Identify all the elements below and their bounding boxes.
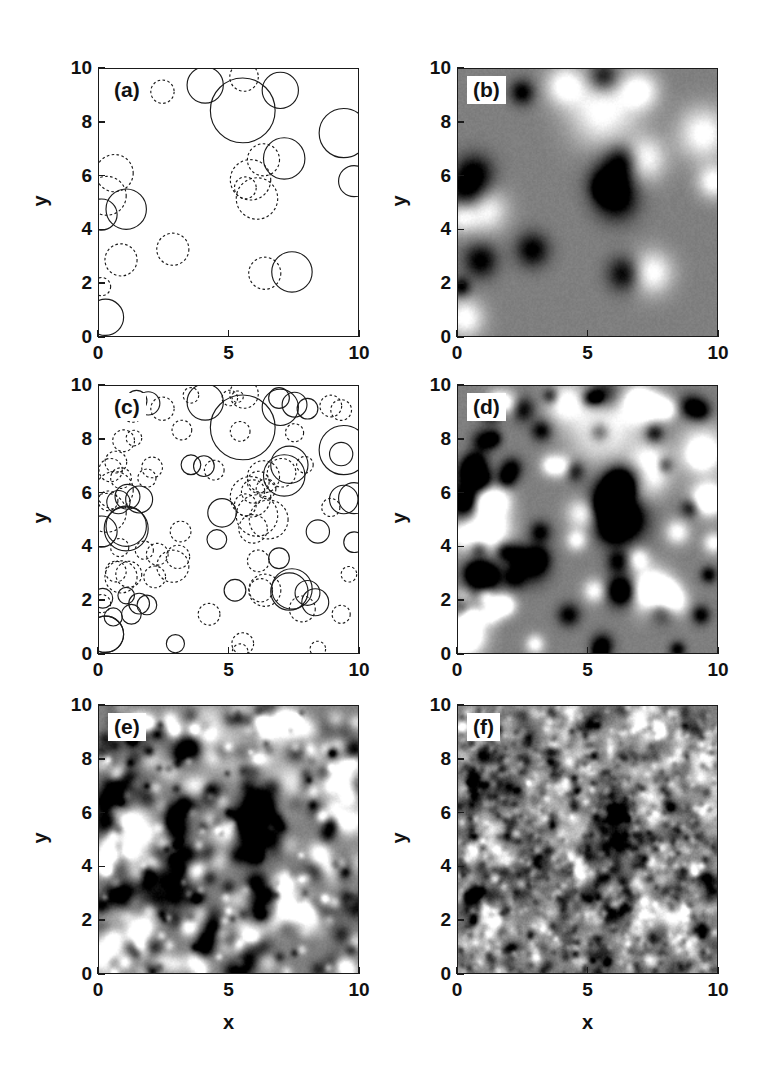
grayscale-field-e	[99, 706, 358, 973]
x-tick-label: 10	[329, 660, 389, 679]
y-tickmark	[98, 121, 105, 123]
y-tick-label: 4	[409, 856, 451, 875]
x-tickmark	[228, 330, 230, 337]
y-tickmark	[98, 758, 105, 760]
circle-negative	[105, 561, 137, 593]
grayscale-field-b	[458, 69, 717, 336]
x-tick-label: 10	[688, 660, 748, 679]
x-tick-label: 0	[68, 343, 128, 362]
circle-positive	[207, 530, 227, 550]
y-tick-label: 2	[409, 910, 451, 929]
y-tick-label: 2	[50, 590, 92, 609]
circle-positive	[330, 442, 353, 465]
y-tick-label: 4	[50, 856, 92, 875]
y-tickmark	[457, 919, 464, 921]
circle-negative	[111, 468, 132, 489]
y-tickmark	[457, 973, 464, 975]
x-tickmark	[587, 647, 589, 654]
circle-negative	[151, 397, 174, 420]
y-tick-label: 4	[50, 536, 92, 555]
y-tickmark	[457, 758, 464, 760]
plot-frame-b	[457, 68, 718, 337]
circle-negative	[172, 420, 192, 440]
circle-negative	[157, 233, 189, 265]
x-tickmark	[358, 647, 360, 654]
y-axis-title: y	[389, 181, 409, 221]
y-tick-label: 8	[50, 112, 92, 131]
panel-label-a: (a)	[108, 76, 146, 104]
circle-negative	[99, 471, 133, 508]
circle-positive	[99, 299, 124, 335]
grayscale-field-d	[458, 386, 717, 653]
y-tickmark	[98, 653, 105, 655]
y-tick-label: 6	[409, 483, 451, 502]
plot-frame-c	[98, 385, 359, 654]
circle-negative	[198, 603, 220, 625]
x-tickmark	[717, 330, 719, 337]
y-axis-title: y	[389, 818, 409, 858]
y-tick-label: 10	[50, 375, 92, 394]
panel-d: (d)	[457, 385, 718, 654]
circle-negative	[320, 395, 342, 417]
x-tick-label: 5	[199, 660, 259, 679]
y-tickmark	[457, 384, 464, 386]
circle-negative	[247, 471, 269, 493]
y-tickmark	[457, 866, 464, 868]
circle-negative	[142, 457, 163, 478]
panel-b: (b)	[457, 68, 718, 337]
circle-negative	[241, 480, 264, 503]
circle-negative	[332, 605, 350, 623]
circle-positive	[306, 520, 329, 543]
circle-negative	[234, 177, 256, 199]
circle-negative	[230, 422, 250, 442]
figure-root: 02468100510y(a)02468100510y(b)0246810051…	[0, 0, 760, 1065]
y-tickmark	[98, 599, 105, 601]
x-tick-label: 5	[558, 660, 618, 679]
y-tickmark	[98, 282, 105, 284]
circle-negative	[310, 641, 326, 653]
x-tick-label: 0	[427, 343, 487, 362]
y-tickmark	[457, 229, 464, 231]
x-tick-label: 5	[558, 980, 618, 999]
y-tick-label: 2	[409, 590, 451, 609]
y-tickmark	[457, 336, 464, 338]
y-tickmark	[98, 704, 105, 706]
circle-positive	[107, 490, 130, 513]
x-axis-title: x	[568, 1012, 608, 1032]
circle-negative	[144, 566, 166, 588]
circle-negative	[99, 176, 126, 215]
circle-positive	[194, 456, 215, 477]
y-tickmark	[457, 704, 464, 706]
circle-positive	[224, 579, 246, 601]
circle-positive	[208, 499, 236, 528]
x-tickmark	[97, 967, 99, 974]
y-tick-label: 6	[50, 166, 92, 185]
y-tickmark	[457, 438, 464, 440]
plot-frame-f	[457, 705, 718, 974]
y-tick-label: 10	[409, 375, 451, 394]
circle-positive	[210, 78, 275, 143]
y-tick-label: 4	[409, 219, 451, 238]
circle-negative	[113, 430, 135, 452]
panel-a: (a)	[98, 68, 359, 337]
circle-negative	[116, 561, 142, 587]
circle-positive	[210, 395, 275, 460]
x-tick-label: 0	[68, 660, 128, 679]
x-tickmark	[587, 967, 589, 974]
y-tick-label: 8	[409, 749, 451, 768]
x-tickmark	[717, 647, 719, 654]
y-tick-label: 6	[50, 803, 92, 822]
circle-negative	[322, 498, 340, 516]
circle-negative	[234, 494, 256, 516]
y-tickmark	[98, 919, 105, 921]
y-tick-label: 10	[50, 695, 92, 714]
x-tickmark	[97, 647, 99, 654]
y-tickmark	[457, 492, 464, 494]
y-axis-title: y	[30, 498, 50, 538]
circle-positive	[99, 616, 124, 652]
x-tickmark	[228, 647, 230, 654]
x-tick-label: 5	[199, 343, 259, 362]
y-tick-label: 8	[50, 429, 92, 448]
x-tick-label: 0	[427, 980, 487, 999]
y-tickmark	[457, 67, 464, 69]
